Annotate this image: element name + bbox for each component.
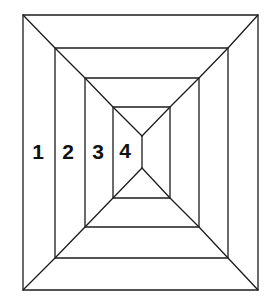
- diagonal-bottom-right: [142, 168, 258, 290]
- rectangle-1: [23, 15, 258, 290]
- label-3: 3: [92, 141, 104, 162]
- rectangles: [23, 15, 258, 290]
- diagonals: [23, 15, 258, 290]
- diagonal-top-left: [23, 15, 142, 136]
- label-4: 4: [119, 140, 131, 161]
- diagonal-bottom-left: [23, 168, 142, 290]
- label-2: 2: [62, 141, 74, 162]
- label-1: 1: [32, 141, 44, 162]
- diagonal-top-right: [142, 15, 258, 136]
